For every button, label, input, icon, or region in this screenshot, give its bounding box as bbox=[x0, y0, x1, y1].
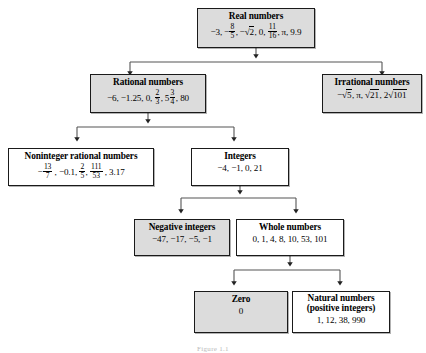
node-title: Negative integers bbox=[141, 222, 223, 232]
node-title: Zero bbox=[201, 294, 281, 304]
node-zero[interactable]: Zero 0 bbox=[194, 291, 288, 333]
node-values: 1, 12, 38, 990 bbox=[299, 315, 383, 325]
node-title: Irrational numbers bbox=[329, 77, 415, 87]
node-title: Rational numbers bbox=[97, 77, 199, 87]
node-title: Real numbers bbox=[204, 11, 308, 21]
node-real-numbers[interactable]: Real numbers −3, −85, −√2, 0, 1116, π, 9… bbox=[197, 8, 315, 48]
node-negative-integers[interactable]: Negative integers −47, −17, −5, −1 bbox=[134, 219, 230, 256]
node-values: 0 bbox=[201, 306, 281, 316]
node-values: −√5, π, √21, 2√101 bbox=[329, 89, 415, 100]
figure-caption: Figure 1.1 bbox=[0, 345, 426, 353]
node-irrational-numbers[interactable]: Irrational numbers −√5, π, √21, 2√101 bbox=[322, 74, 422, 113]
node-title: Whole numbers bbox=[243, 222, 337, 232]
node-whole-numbers[interactable]: Whole numbers 0, 1, 4, 8, 10, 53, 101 bbox=[236, 219, 344, 256]
node-values: −4, −1, 0, 21 bbox=[198, 163, 282, 173]
node-title: Integers bbox=[198, 151, 282, 161]
node-values: 0, 1, 4, 8, 10, 53, 101 bbox=[243, 234, 337, 244]
node-title-line1: Natural numbers bbox=[299, 293, 383, 303]
node-values: −137 , −0.1, 25, 11153 , 3.17 bbox=[15, 163, 147, 179]
node-values: −6, −1.25, 0, 23, 534, 80 bbox=[97, 89, 199, 105]
node-values: −47, −17, −5, −1 bbox=[141, 234, 223, 244]
node-integers[interactable]: Integers −4, −1, 0, 21 bbox=[191, 148, 289, 186]
diagram-canvas: Real numbers −3, −85, −√2, 0, 1116, π, 9… bbox=[0, 0, 426, 353]
node-natural-numbers[interactable]: Natural numbers (positive integers) 1, 1… bbox=[292, 291, 390, 333]
node-values: −3, −85, −√2, 0, 1116, π, 9.9 bbox=[204, 23, 308, 39]
node-title-line2: (positive integers) bbox=[299, 303, 383, 313]
node-title: Noninteger rational numbers bbox=[15, 151, 147, 161]
node-noninteger-rational-numbers[interactable]: Noninteger rational numbers −137 , −0.1,… bbox=[8, 148, 154, 186]
node-rational-numbers[interactable]: Rational numbers −6, −1.25, 0, 23, 534, … bbox=[90, 74, 206, 113]
